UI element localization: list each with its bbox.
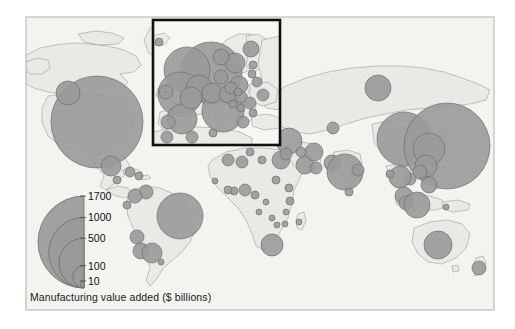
- value-circle-inset: [257, 89, 269, 101]
- value-circle: [404, 192, 430, 218]
- value-circle: [123, 201, 131, 209]
- value-circle: [56, 81, 80, 105]
- value-circle: [261, 234, 283, 256]
- value-circle-inset: [248, 70, 256, 78]
- value-circle-inset: [234, 88, 242, 96]
- value-circle: [285, 184, 293, 192]
- value-circle: [310, 162, 322, 174]
- value-circle: [263, 199, 269, 205]
- value-circle-inset: [237, 104, 245, 112]
- value-circle: [258, 156, 266, 164]
- value-circle: [101, 156, 121, 176]
- value-circle: [269, 215, 275, 221]
- value-circle: [345, 188, 353, 196]
- value-circle: [421, 177, 437, 193]
- value-circle: [424, 231, 452, 259]
- legend-value-label: 100: [88, 260, 106, 272]
- value-circle: [157, 193, 203, 239]
- value-circle-inset: [209, 129, 217, 137]
- value-circle: [472, 261, 486, 275]
- value-circle-inset: [229, 100, 237, 108]
- value-circle-inset: [180, 87, 202, 109]
- value-circle: [130, 230, 144, 244]
- legend-halfcircle: [80, 281, 84, 288]
- legend-value-label: 500: [88, 232, 106, 244]
- land-tasmania: [452, 265, 459, 272]
- value-circle: [256, 209, 262, 215]
- value-circle: [327, 122, 339, 134]
- inset-land-turkey: [252, 114, 280, 130]
- value-circle-inset: [244, 97, 256, 109]
- value-circle: [352, 164, 364, 176]
- value-circle: [222, 154, 234, 166]
- value-circle-inset: [159, 85, 173, 99]
- value-circle: [272, 176, 280, 184]
- legend-value-label: 10: [88, 275, 100, 287]
- value-circle: [158, 259, 164, 265]
- value-circle-inset: [186, 131, 198, 143]
- value-circle-inset: [249, 109, 257, 117]
- value-circle-inset: [249, 61, 257, 69]
- value-circle-inset: [161, 115, 175, 129]
- value-circle: [236, 156, 248, 168]
- value-circle: [286, 197, 294, 205]
- value-circle: [135, 172, 143, 180]
- europe-inset-content: [152, 20, 280, 145]
- value-circle: [125, 167, 135, 177]
- legend-value-label: 1000: [88, 211, 112, 223]
- value-circle: [443, 204, 449, 210]
- value-circle: [239, 184, 251, 196]
- value-circle: [365, 75, 391, 101]
- value-circle: [280, 148, 292, 160]
- value-circle: [224, 186, 232, 194]
- value-circle-inset: [161, 131, 173, 143]
- legend-value-label: 1700: [88, 190, 112, 202]
- value-circle: [296, 147, 306, 157]
- value-circle: [251, 191, 259, 199]
- value-circle: [128, 189, 142, 203]
- value-circle-inset: [243, 41, 259, 57]
- world-map-figure: 1700100050010010: [0, 0, 515, 329]
- value-circle: [282, 221, 288, 227]
- value-circle: [283, 209, 289, 215]
- value-circle-inset: [155, 38, 163, 46]
- value-circle-inset: [214, 70, 228, 84]
- value-circle: [113, 176, 121, 184]
- value-circle-inset: [252, 77, 262, 87]
- value-circle: [305, 143, 323, 161]
- value-circle-inset: [237, 116, 249, 128]
- value-circle: [246, 148, 254, 156]
- value-circle: [386, 170, 394, 178]
- value-circle: [212, 178, 218, 184]
- value-circle: [296, 219, 302, 225]
- value-circle-inset: [213, 49, 229, 65]
- figure-page: 1700100050010010 Manufacturing value add…: [0, 0, 515, 329]
- value-circle: [274, 222, 280, 228]
- legend-caption: Manufacturing value added ($ billions): [30, 291, 211, 303]
